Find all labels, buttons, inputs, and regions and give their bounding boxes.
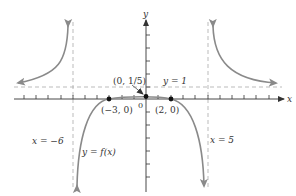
asymptotes [14,22,282,188]
point-label-2-0: (2, 0) [155,105,179,115]
origin-label: 0 [138,101,143,110]
horizontal-asymptote-label: y = 1 [162,76,187,86]
function-label: y = f(x) [81,147,116,157]
x-axis-label: x [287,94,292,104]
left-asymptote-label: x = −6 [32,136,64,146]
middle-branch [77,97,204,186]
y-axis-label: y [142,9,149,19]
function-graph: x y 0 (0, 1/5) (−3, 0) (2, 0) y = 1 x = … [0,0,296,196]
point-neg3-0 [107,97,112,102]
function-curve [18,26,276,186]
point-2-0 [169,97,174,102]
point-label-neg3-0: (−3, 0) [101,105,133,115]
right-asymptote-label: x = 5 [210,135,234,145]
point-label-0-fifth: (0, 1/5) [113,76,146,86]
axes: x y 0 [14,9,292,192]
y-ticks [146,35,150,177]
right-branch [213,26,276,83]
annotation-arrow [132,85,143,94]
labels: (0, 1/5) (−3, 0) (2, 0) y = 1 x = −6 x =… [32,76,234,157]
left-branch [18,26,68,83]
point-0-fifth [144,94,149,99]
